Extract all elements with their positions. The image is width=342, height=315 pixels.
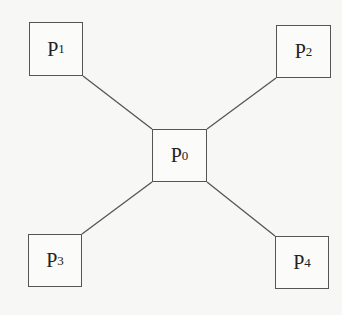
node-label-base: P — [293, 251, 304, 274]
edge-p2-p0 — [207, 78, 276, 129]
node-label-base: P — [46, 249, 57, 272]
star-diagram: P0 P1 P2 P3 P4 — [0, 0, 342, 315]
node-label-base: P — [295, 40, 306, 63]
edge-p1-p0 — [83, 76, 152, 129]
edge-p3-p0 — [82, 182, 152, 234]
node-label-base: P — [47, 38, 58, 61]
node-p1: P1 — [29, 22, 83, 76]
node-p2: P2 — [276, 25, 331, 78]
edge-p4-p0 — [207, 182, 275, 236]
node-p3: P3 — [28, 234, 82, 287]
node-label-base: P — [171, 144, 182, 167]
node-p4: P4 — [275, 236, 329, 289]
node-p0: P0 — [152, 129, 207, 182]
